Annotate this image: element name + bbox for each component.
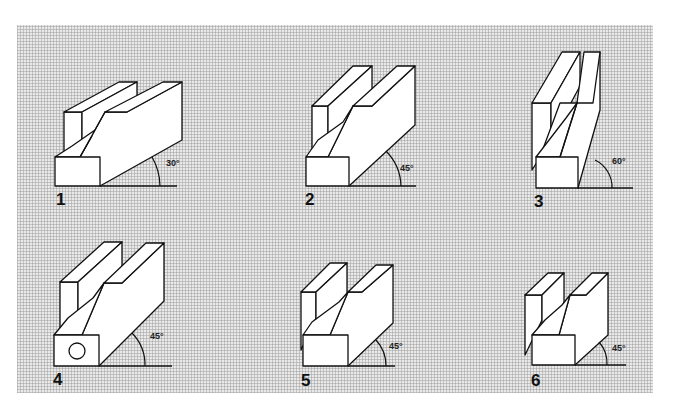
front-box-face [536, 157, 578, 188]
hole-circle [69, 343, 85, 359]
angle-label: 30° [166, 158, 180, 168]
figure-5: 45° 5 [301, 263, 403, 390]
block-diagram: 30° 1 45° 2 60° 3 [0, 0, 676, 416]
front-box-face [532, 335, 575, 365]
front-box-face [303, 335, 348, 366]
angle-label: 45° [150, 331, 164, 341]
angle-arc [132, 333, 145, 366]
figure-number: 6 [531, 371, 540, 390]
angle-label: 45° [400, 163, 414, 173]
figure-number: 2 [305, 190, 314, 209]
figure-4: 45° 4 [53, 242, 172, 389]
figure-number: 1 [56, 190, 65, 209]
figure-number: 5 [301, 371, 310, 390]
figure-number: 3 [534, 192, 543, 211]
figure-3: 60° 3 [532, 52, 633, 211]
front-box-face [306, 157, 349, 186]
angle-arc [386, 151, 401, 186]
figure-number: 4 [53, 370, 63, 389]
angle-arc [152, 157, 160, 186]
figure-6: 45° 6 [525, 273, 626, 390]
angle-label: 45° [389, 341, 403, 351]
angle-arc [599, 342, 607, 365]
angle-label: 60° [612, 156, 626, 166]
angle-arc [595, 160, 612, 188]
figure-2: 45° 2 [305, 66, 416, 209]
angle-label: 45° [612, 343, 626, 353]
angle-arc [376, 340, 386, 366]
front-box-face [55, 157, 100, 186]
figure-1: 30° 1 [55, 82, 182, 209]
